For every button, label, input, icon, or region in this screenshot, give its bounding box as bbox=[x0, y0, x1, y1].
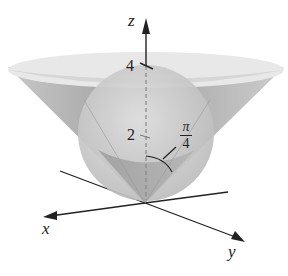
angle-label: π 4 bbox=[180, 120, 192, 151]
y-arrow-icon bbox=[231, 231, 245, 242]
z-tick-label-2: 2 bbox=[127, 127, 135, 143]
x-axis bbox=[50, 203, 145, 216]
z-axis-label: z bbox=[128, 12, 135, 29]
angle-denominator: 4 bbox=[183, 136, 190, 151]
y-axis-label: y bbox=[228, 243, 236, 260]
angle-numerator: π bbox=[182, 119, 189, 134]
cone-sphere-diagram: z 4 2 π 4 x y bbox=[0, 0, 288, 276]
z-tick-label-4: 4 bbox=[126, 58, 134, 74]
x-axis-label: x bbox=[42, 220, 50, 237]
y-axis bbox=[145, 203, 238, 238]
z-arrow-icon bbox=[142, 18, 150, 34]
